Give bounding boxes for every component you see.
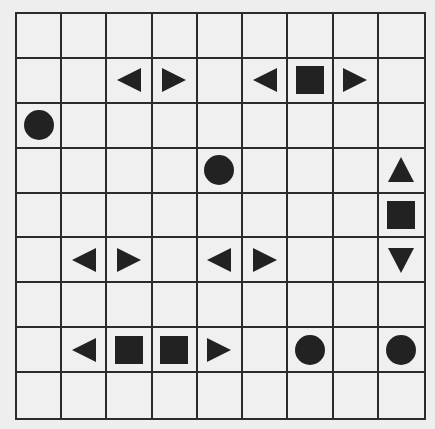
- grid-cell-r6-c8[interactable]: [379, 283, 424, 328]
- grid-cell-r5-c4[interactable]: [198, 238, 243, 283]
- grid-cell-r7-c4[interactable]: [198, 328, 243, 373]
- grid-cell-r3-c7[interactable]: [334, 149, 379, 194]
- grid-cell-r3-c3[interactable]: [153, 149, 198, 194]
- grid-cell-r2-c3[interactable]: [153, 104, 198, 149]
- grid-cell-r7-c0[interactable]: [17, 328, 62, 373]
- grid-cell-r2-c4[interactable]: [198, 104, 243, 149]
- grid-cell-r1-c5[interactable]: [243, 59, 288, 104]
- grid-cell-r4-c1[interactable]: [62, 194, 107, 239]
- middle-square-icon: [158, 334, 190, 366]
- grid-cell-r3-c4[interactable]: [198, 149, 243, 194]
- end-right-icon: [203, 334, 235, 366]
- end-bottom-icon: [385, 244, 417, 276]
- grid-cell-r4-c3[interactable]: [153, 194, 198, 239]
- grid-cell-r4-c0[interactable]: [17, 194, 62, 239]
- grid-cell-r7-c3[interactable]: [153, 328, 198, 373]
- end-left-icon: [68, 244, 100, 276]
- grid-cell-r6-c7[interactable]: [334, 283, 379, 328]
- grid-cell-r5-c7[interactable]: [334, 238, 379, 283]
- grid-cell-r1-c0[interactable]: [17, 59, 62, 104]
- grid-cell-r7-c7[interactable]: [334, 328, 379, 373]
- end-left-icon: [249, 64, 281, 96]
- grid-cell-r8-c5[interactable]: [243, 373, 288, 418]
- grid-cell-r1-c4[interactable]: [198, 59, 243, 104]
- grid-cell-r6-c0[interactable]: [17, 283, 62, 328]
- grid-cell-r4-c5[interactable]: [243, 194, 288, 239]
- grid-cell-r6-c3[interactable]: [153, 283, 198, 328]
- end-left-icon: [68, 334, 100, 366]
- grid-cell-r1-c8[interactable]: [379, 59, 424, 104]
- grid-cell-r6-c1[interactable]: [62, 283, 107, 328]
- grid-cell-r0-c3[interactable]: [153, 14, 198, 59]
- grid-cell-r8-c2[interactable]: [107, 373, 152, 418]
- end-left-icon: [113, 64, 145, 96]
- grid-cell-r0-c8[interactable]: [379, 14, 424, 59]
- grid-cell-r7-c5[interactable]: [243, 328, 288, 373]
- end-right-icon: [249, 244, 281, 276]
- grid-cell-r5-c8[interactable]: [379, 238, 424, 283]
- grid-cell-r0-c6[interactable]: [288, 14, 333, 59]
- grid-cell-r7-c1[interactable]: [62, 328, 107, 373]
- grid-cell-r4-c8[interactable]: [379, 194, 424, 239]
- grid-cell-r1-c6[interactable]: [288, 59, 333, 104]
- middle-square-icon: [385, 199, 417, 231]
- grid-cell-r2-c7[interactable]: [334, 104, 379, 149]
- end-left-icon: [203, 244, 235, 276]
- grid-cell-r5-c5[interactable]: [243, 238, 288, 283]
- grid-cell-r1-c7[interactable]: [334, 59, 379, 104]
- grid-cell-r0-c0[interactable]: [17, 14, 62, 59]
- grid-cell-r0-c7[interactable]: [334, 14, 379, 59]
- grid-cell-r4-c6[interactable]: [288, 194, 333, 239]
- grid-cell-r7-c6[interactable]: [288, 328, 333, 373]
- grid-cell-r8-c6[interactable]: [288, 373, 333, 418]
- end-right-icon: [113, 244, 145, 276]
- grid-cell-r2-c2[interactable]: [107, 104, 152, 149]
- grid-cell-r1-c3[interactable]: [153, 59, 198, 104]
- middle-square-icon: [113, 334, 145, 366]
- grid-cell-r5-c2[interactable]: [107, 238, 152, 283]
- grid-cell-r7-c8[interactable]: [379, 328, 424, 373]
- grid-cell-r4-c4[interactable]: [198, 194, 243, 239]
- submarine-circle-icon: [203, 154, 235, 186]
- grid-cell-r7-c2[interactable]: [107, 328, 152, 373]
- grid-cell-r0-c2[interactable]: [107, 14, 152, 59]
- grid-cell-r3-c5[interactable]: [243, 149, 288, 194]
- grid-cell-r2-c0[interactable]: [17, 104, 62, 149]
- grid-cell-r0-c5[interactable]: [243, 14, 288, 59]
- grid-cell-r1-c2[interactable]: [107, 59, 152, 104]
- grid-cell-r5-c3[interactable]: [153, 238, 198, 283]
- end-right-icon: [339, 64, 371, 96]
- submarine-circle-icon: [385, 334, 417, 366]
- grid-cell-r8-c7[interactable]: [334, 373, 379, 418]
- grid-cell-r6-c6[interactable]: [288, 283, 333, 328]
- grid-cell-r8-c4[interactable]: [198, 373, 243, 418]
- grid-cell-r3-c1[interactable]: [62, 149, 107, 194]
- grid-cell-r4-c2[interactable]: [107, 194, 152, 239]
- grid-cell-r2-c5[interactable]: [243, 104, 288, 149]
- grid-cell-r5-c1[interactable]: [62, 238, 107, 283]
- grid-cell-r6-c2[interactable]: [107, 283, 152, 328]
- grid-cell-r1-c1[interactable]: [62, 59, 107, 104]
- grid-cell-r6-c4[interactable]: [198, 283, 243, 328]
- grid-cell-r8-c1[interactable]: [62, 373, 107, 418]
- end-right-icon: [158, 64, 190, 96]
- grid-cell-r6-c5[interactable]: [243, 283, 288, 328]
- grid-cell-r0-c1[interactable]: [62, 14, 107, 59]
- grid-cell-r8-c8[interactable]: [379, 373, 424, 418]
- grid-cell-r5-c6[interactable]: [288, 238, 333, 283]
- grid-cell-r5-c0[interactable]: [17, 238, 62, 283]
- submarine-circle-icon: [294, 334, 326, 366]
- middle-square-icon: [294, 64, 326, 96]
- grid-cell-r2-c6[interactable]: [288, 104, 333, 149]
- grid-cell-r0-c4[interactable]: [198, 14, 243, 59]
- grid-cell-r4-c7[interactable]: [334, 194, 379, 239]
- grid-cell-r3-c6[interactable]: [288, 149, 333, 194]
- grid-cell-r2-c8[interactable]: [379, 104, 424, 149]
- grid-cell-r3-c0[interactable]: [17, 149, 62, 194]
- grid-cell-r3-c8[interactable]: [379, 149, 424, 194]
- grid-cell-r8-c0[interactable]: [17, 373, 62, 418]
- battleship-board: [15, 12, 426, 420]
- grid-cell-r2-c1[interactable]: [62, 104, 107, 149]
- grid-cell-r8-c3[interactable]: [153, 373, 198, 418]
- grid-cell-r3-c2[interactable]: [107, 149, 152, 194]
